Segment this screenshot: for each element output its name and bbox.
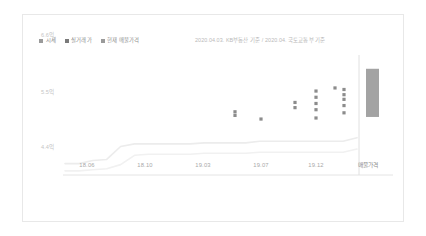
square-marker-icon	[39, 39, 43, 43]
scatter-point	[314, 102, 317, 105]
scatter-point	[314, 89, 317, 92]
scatter-point	[314, 96, 317, 99]
legend-label-siseh: 시세	[46, 38, 56, 43]
square-marker-icon	[65, 39, 69, 43]
chart-plot-area	[63, 55, 393, 183]
x-tick-1810: 18.10	[137, 163, 152, 169]
series-siseh-line	[65, 138, 357, 164]
x-tick-1912: 19.12	[308, 163, 323, 169]
y-tick-bottom: 4.4억	[41, 145, 54, 151]
legend-label-actual-price: 실거래가	[71, 38, 91, 43]
legend-item-siseh[interactable]: 시세	[39, 38, 56, 43]
scatter-point	[314, 116, 317, 119]
scatter-point	[342, 88, 345, 91]
y-tick-mid: 5.5억	[41, 90, 54, 96]
series-actual-scatter	[233, 86, 345, 120]
x-tick-1903: 19.03	[195, 163, 210, 169]
current-listing-bar	[366, 69, 379, 117]
scatter-point	[342, 98, 345, 101]
scatter-point	[259, 117, 262, 120]
y-tick-top: 6.6억	[41, 33, 54, 39]
legend-item-current-listing[interactable]: 현재 매물가격	[101, 38, 140, 43]
scatter-point	[333, 86, 336, 89]
scatter-point	[293, 106, 296, 109]
chart-legend: 시세 실거래가 현재 매물가격	[39, 38, 139, 43]
scatter-point	[233, 114, 236, 117]
square-marker-icon	[101, 39, 105, 43]
chart-svg	[63, 55, 393, 183]
price-chart-card: 시세 실거래가 현재 매물가격 2020.04.03. KB부동산 기준 / 2…	[22, 14, 404, 222]
scatter-point	[233, 110, 236, 113]
legend-label-current-listing: 현재 매물가격	[107, 38, 139, 43]
scatter-point	[342, 93, 345, 96]
scatter-point	[314, 108, 317, 111]
scatter-point	[342, 104, 345, 107]
x-tick-listing-price: 매물가격	[358, 163, 379, 169]
chart-subtitle: 2020.04.03. KB부동산 기준 / 2020.04. 국토교통부 기준	[195, 38, 325, 43]
x-tick-1907: 19.07	[253, 163, 268, 169]
scatter-point	[293, 101, 296, 104]
legend-item-actual-price[interactable]: 실거래가	[65, 38, 92, 43]
x-tick-1806: 18.06	[79, 163, 94, 169]
scatter-point	[342, 111, 345, 114]
